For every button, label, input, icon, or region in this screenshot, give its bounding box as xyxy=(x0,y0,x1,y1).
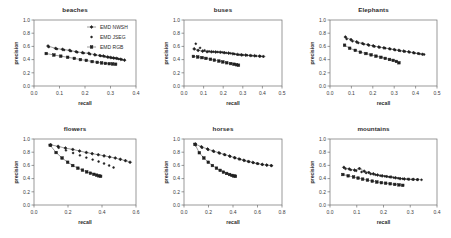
data-point xyxy=(398,184,401,187)
data-point xyxy=(218,60,221,63)
y-tick-label: 0.2 xyxy=(173,70,180,76)
x-tick-label: 0.0 xyxy=(181,90,188,96)
data-point xyxy=(357,177,360,180)
chart-panel-elephants: Elephants0.00.20.40.60.81.00.00.10.20.30… xyxy=(296,0,451,119)
x-axis-title: recall xyxy=(377,219,391,225)
data-point xyxy=(393,183,396,186)
data-point xyxy=(102,154,105,157)
x-tick-label: 0.5 xyxy=(279,90,286,96)
plot-frame xyxy=(34,139,136,205)
data-point xyxy=(118,58,120,60)
data-point xyxy=(196,56,199,59)
legend-marker xyxy=(90,46,93,49)
data-point xyxy=(222,171,225,174)
data-point xyxy=(357,42,359,44)
series-emd-rgb xyxy=(343,44,400,64)
data-point xyxy=(76,51,78,53)
data-point xyxy=(45,52,48,55)
y-tick-label: 0.6 xyxy=(173,43,180,49)
data-point xyxy=(194,143,197,146)
y-tick-label: 1.0 xyxy=(23,136,30,142)
data-point xyxy=(366,179,369,182)
data-point xyxy=(96,61,99,64)
y-axis-title: precision xyxy=(163,160,169,183)
y-tick-label: 0.0 xyxy=(173,202,180,208)
data-point xyxy=(77,167,80,170)
data-point xyxy=(393,177,395,179)
y-axis-title: precision xyxy=(309,160,315,183)
data-point xyxy=(193,47,196,50)
data-point xyxy=(207,149,209,151)
data-point xyxy=(99,175,102,178)
data-point xyxy=(233,63,236,66)
y-tick-label: 0.0 xyxy=(23,202,30,208)
data-point xyxy=(56,48,58,50)
chart-panel-beaches: beaches0.00.20.40.60.81.00.00.10.20.30.4… xyxy=(0,0,150,119)
x-axis-title: recall xyxy=(377,100,391,106)
x-tick-label: 0.3 xyxy=(407,209,414,215)
data-point xyxy=(108,62,111,65)
series-emd-jseg xyxy=(195,144,273,166)
y-tick-label: 1.0 xyxy=(319,17,326,23)
data-point xyxy=(234,157,236,159)
data-point xyxy=(121,59,123,61)
data-point xyxy=(59,55,62,58)
data-point xyxy=(192,55,195,58)
data-point xyxy=(388,58,391,61)
data-point xyxy=(352,176,355,179)
data-point xyxy=(129,161,132,164)
data-point xyxy=(104,56,106,58)
x-tick-label: 0.6 xyxy=(254,209,261,215)
data-point xyxy=(379,46,381,48)
data-point xyxy=(371,180,374,183)
y-tick-label: 0.0 xyxy=(319,83,326,89)
data-point xyxy=(222,61,225,64)
x-tick-label: 0.4 xyxy=(133,90,140,96)
data-point xyxy=(225,61,228,64)
data-point xyxy=(399,50,401,52)
data-point xyxy=(370,173,372,175)
data-point xyxy=(114,57,116,59)
data-point xyxy=(103,163,105,165)
data-point xyxy=(248,161,250,163)
data-point xyxy=(246,54,248,56)
legend-marker xyxy=(90,25,93,28)
data-point xyxy=(404,51,406,53)
data-point xyxy=(53,54,56,57)
y-tick-label: 0.8 xyxy=(23,30,30,36)
data-point xyxy=(201,56,204,59)
x-tick-label: 0.2 xyxy=(220,90,227,96)
data-point xyxy=(211,164,214,167)
data-point xyxy=(411,178,413,180)
data-point xyxy=(255,55,257,57)
y-tick-label: 0.6 xyxy=(23,43,30,49)
data-point xyxy=(221,51,223,53)
y-tick-label: 0.2 xyxy=(23,189,30,195)
data-point xyxy=(348,47,351,50)
data-point xyxy=(97,153,100,156)
data-point xyxy=(111,63,114,66)
figure-panel-grid: beaches0.00.20.40.60.81.00.00.10.20.30.4… xyxy=(0,0,451,238)
x-tick-label: 0.2 xyxy=(380,209,387,215)
data-point xyxy=(271,165,273,167)
data-point xyxy=(213,151,215,153)
series-emd-nwsh xyxy=(49,143,131,164)
data-point xyxy=(352,40,354,42)
data-point xyxy=(253,162,255,164)
chart-panel-flowers: flowers0.00.20.40.60.81.00.00.20.40.6rec… xyxy=(0,119,150,238)
data-point xyxy=(342,173,345,176)
y-tick-label: 0.8 xyxy=(173,30,180,36)
data-point xyxy=(108,56,110,58)
data-point xyxy=(225,172,228,175)
y-tick-label: 0.4 xyxy=(23,175,30,181)
series-emd-jseg xyxy=(345,168,423,181)
y-tick-label: 0.8 xyxy=(23,149,30,155)
x-tick-label: 0.1 xyxy=(200,90,207,96)
x-tick-label: 0.0 xyxy=(31,90,38,96)
y-tick-label: 0.8 xyxy=(319,149,326,155)
x-tick-label: 0.3 xyxy=(239,90,246,96)
plot-frame xyxy=(330,20,437,86)
data-point xyxy=(199,47,201,49)
data-point xyxy=(370,54,373,57)
data-point xyxy=(195,43,197,45)
